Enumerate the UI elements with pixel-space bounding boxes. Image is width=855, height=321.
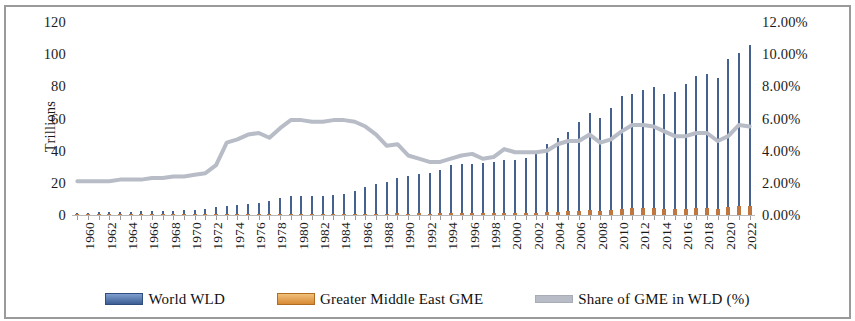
x-axis-tick [504,216,505,220]
x-axis-tick [419,216,420,220]
x-axis-tick-label: 1986 [360,222,376,250]
x-axis-tick [547,216,548,220]
x-axis-tick-label: 1994 [445,222,461,250]
x-axis-tick [590,216,591,220]
x-axis-tick [462,216,463,220]
x-axis-tick [430,216,431,220]
x-axis-tick [333,216,334,220]
x-axis-tick [88,216,89,220]
frame-border-top [4,5,851,7]
x-axis-tick [365,216,366,220]
x-axis-tick [120,216,121,220]
x-axis-tick [109,216,110,220]
x-axis-tick [323,216,324,220]
x-axis-tick-label: 1978 [274,222,290,250]
y-axis-left-tick-label: 20 [51,174,66,191]
x-axis-tick [451,216,452,220]
x-axis-tick [131,216,132,220]
legend-item[interactable]: World WLD [105,291,225,308]
x-axis-tick [312,216,313,220]
x-axis-tick [718,216,719,220]
x-axis-tick [515,216,516,220]
x-axis-tick [227,216,228,220]
x-axis-tick-label: 1984 [338,222,354,250]
legend-item[interactable]: Greater Middle East GME [277,291,483,308]
x-axis-tick-label: 1962 [104,222,120,250]
x-axis-tick-label: 2010 [616,222,632,250]
x-axis-tick [408,216,409,220]
x-axis-tick [579,216,580,220]
x-axis-tick [472,216,473,220]
x-axis-tick [77,216,78,220]
legend-swatch-icon [535,295,573,303]
chart-container: Trillions 020406080100120 0.00%2.00%4.00… [0,0,855,321]
x-axis-tick-label: 2012 [637,222,653,250]
x-axis-tick-label: 1998 [488,222,504,250]
y-axis-left: 020406080100120 [0,22,66,215]
x-axis-tick [291,216,292,220]
x-axis-tick-label: 1980 [296,222,312,250]
y-axis-left-tick-label: 80 [51,78,66,95]
y-axis-right-tick-label: 12.00% [762,14,808,31]
x-axis-tick [696,216,697,220]
y-axis-left-tick-label: 100 [44,46,66,63]
y-axis-right-tick-label: 0.00% [762,207,800,224]
x-axis-tick-label: 1988 [381,222,397,250]
x-axis-tick-label: 1992 [424,222,440,250]
x-axis-tick [611,216,612,220]
x-axis-tick [686,216,687,220]
x-axis-tick [600,216,601,220]
x-axis-tick-label: 1974 [232,222,248,250]
chart-legend: World WLDGreater Middle East GMEShare of… [0,288,855,310]
legend-item-label: World WLD [148,291,225,308]
legend-swatch-icon [105,293,143,305]
x-axis-tick [387,216,388,220]
y-axis-left-tick-label: 60 [51,110,66,127]
legend-swatch-icon [277,293,315,305]
x-axis-tick [344,216,345,220]
x-axis-tick-label: 2020 [723,222,739,250]
y-axis-left-tick-label: 40 [51,142,66,159]
x-axis-tick-label: 1976 [253,222,269,250]
x-axis-tick-label: 1968 [168,222,184,250]
series-share-of-gme-line [72,22,755,215]
y-axis-right-tick-label: 6.00% [762,110,800,127]
x-axis-tick [152,216,153,220]
x-axis-tick-label: 1966 [146,222,162,250]
x-axis-tick [750,216,751,220]
x-axis-tick-label: 2004 [552,222,568,250]
x-axis-tick [237,216,238,220]
x-axis-tick [173,216,174,220]
x-axis-tick-label: 1990 [402,222,418,250]
x-axis-tick [195,216,196,220]
frame-border-bottom [4,317,851,319]
legend-item-label: Share of GME in WLD (%) [578,291,749,308]
x-axis-tick [355,216,356,220]
x-axis-tick [739,216,740,220]
x-axis-tick-label: 2006 [573,222,589,250]
x-axis-tick-label: 1964 [125,222,141,250]
x-axis-tick [99,216,100,220]
x-axis-tick [184,216,185,220]
x-axis-tick [664,216,665,220]
x-axis-tick [280,216,281,220]
x-axis-tick [728,216,729,220]
x-axis-tick-label: 1996 [467,222,483,250]
legend-item[interactable]: Share of GME in WLD (%) [535,291,749,308]
legend-item-label: Greater Middle East GME [320,291,483,308]
x-axis-tick-label: 1982 [317,222,333,250]
x-axis-tick-label: 2014 [659,222,675,250]
x-axis-tick [494,216,495,220]
x-axis-tick-label: 2022 [744,222,760,250]
x-axis-tick-label: 1972 [210,222,226,250]
y-axis-right-tick-label: 8.00% [762,78,800,95]
x-axis-tick [216,216,217,220]
x-axis-tick-label: 2016 [680,222,696,250]
x-axis: 1960196219641966196819701972197419761978… [72,216,755,282]
x-axis-tick [568,216,569,220]
x-axis-tick-label: 2002 [531,222,547,250]
y-axis-right: 0.00%2.00%4.00%6.00%8.00%10.00%12.00% [762,22,850,215]
x-axis-tick [376,216,377,220]
x-axis-tick [205,216,206,220]
y-axis-right-tick-label: 10.00% [762,46,808,63]
